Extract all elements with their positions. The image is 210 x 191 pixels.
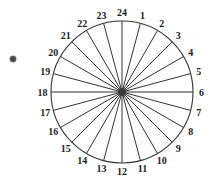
sector-spoke <box>53 74 122 92</box>
sector-number-label: 13 <box>96 163 106 174</box>
sector-spoke <box>104 23 122 92</box>
hub-dot <box>118 88 126 96</box>
sector-number-label: 14 <box>77 155 87 166</box>
sector-number-label: 11 <box>138 163 147 174</box>
sector-spoke <box>122 92 191 110</box>
sector-number-label: 6 <box>199 87 204 98</box>
sector-number-label: 17 <box>40 107 50 118</box>
sector-number-label: 16 <box>48 126 58 137</box>
sector-number-label: 23 <box>96 10 106 21</box>
sector-number-label: 21 <box>61 30 71 41</box>
sector-number-label: 4 <box>188 47 193 58</box>
sector-number-label: 5 <box>196 66 201 77</box>
figure: 123456789101112131415161718192021222324 <box>0 0 210 191</box>
sector-number-label: 10 <box>157 155 167 166</box>
sector-number-label: 18 <box>38 87 48 98</box>
sector-number-label: 19 <box>40 66 50 77</box>
sector-spoke <box>122 23 140 92</box>
sector-number-label: 9 <box>176 143 181 154</box>
sector-number-label: 15 <box>61 143 71 154</box>
sector-number-label: 20 <box>48 47 58 58</box>
sector-number-label: 1 <box>140 10 145 21</box>
sector-spoke <box>53 92 122 110</box>
sector-number-label: 2 <box>159 18 164 29</box>
sector-number-label: 12 <box>117 166 127 177</box>
sector-circle-diagram: 123456789101112131415161718192021222324 <box>0 0 210 191</box>
sector-number-label: 8 <box>188 126 193 137</box>
sector-number-label: 3 <box>176 30 181 41</box>
sector-number-label: 7 <box>196 107 201 118</box>
sector-spoke <box>122 92 140 161</box>
sector-number-label: 22 <box>77 18 87 29</box>
sector-number-label: 24 <box>117 7 127 18</box>
sector-spoke <box>122 74 191 92</box>
sector-spoke <box>104 92 122 161</box>
